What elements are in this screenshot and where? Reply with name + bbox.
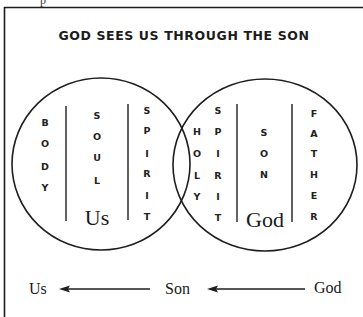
father-letter: E xyxy=(311,190,318,201)
soul-letter: S xyxy=(94,110,101,121)
father-letter: F xyxy=(311,108,318,119)
spirit-letter: R xyxy=(143,168,151,179)
soul-letter: L xyxy=(94,175,100,186)
soul-column: S O U L xyxy=(93,110,101,186)
spirit-letter: S xyxy=(144,105,151,116)
son-letter: S xyxy=(261,127,268,138)
holy-letter: L xyxy=(194,170,200,181)
flow-son-label: Son xyxy=(165,280,190,297)
father-letter: R xyxy=(310,211,318,222)
spirit-letter: P xyxy=(215,126,222,137)
son-letter: O xyxy=(260,148,268,159)
soul-letter: U xyxy=(93,152,101,163)
flow-god-label: God xyxy=(314,279,342,296)
god-spirit-column: S P I R I T xyxy=(214,105,222,223)
spirit-letter: S xyxy=(215,105,222,116)
soul-letter: O xyxy=(93,131,101,142)
son-column: S O N xyxy=(260,127,268,180)
son-letter: N xyxy=(260,169,268,180)
spirit-letter: I xyxy=(145,190,149,201)
body-letter: O xyxy=(41,138,49,149)
spirit-letter: I xyxy=(216,148,220,159)
spirit-letter: I xyxy=(145,148,149,159)
holy-letter: O xyxy=(193,148,201,159)
spirit-letter: R xyxy=(214,170,222,181)
body-column: B O D Y xyxy=(41,117,50,193)
body-letter: B xyxy=(41,117,48,128)
spirit-letter: T xyxy=(215,212,222,223)
us-spirit-column: S P I R I T xyxy=(143,105,151,222)
arrow-god-to-son-icon xyxy=(207,286,305,293)
diagram-canvas: p GOD SEES US THROUGH THE SON B O D Y S … xyxy=(0,0,363,317)
holy-column: H O L Y xyxy=(193,126,201,202)
us-label: Us xyxy=(85,205,109,230)
spirit-letter: T xyxy=(144,211,151,222)
spirit-letter: P xyxy=(144,125,151,136)
arrow-son-to-us-icon xyxy=(59,286,150,293)
flow-us-label: Us xyxy=(29,280,47,297)
god-label: God xyxy=(246,207,284,232)
body-letter: D xyxy=(41,161,49,172)
father-letter: H xyxy=(310,169,318,180)
spirit-letter: I xyxy=(216,191,220,202)
holy-letter: H xyxy=(193,126,201,137)
father-column: F A T H E R xyxy=(310,108,318,222)
body-letter: Y xyxy=(41,182,49,193)
diagram-title: GOD SEES US THROUGH THE SON xyxy=(58,28,309,43)
holy-letter: Y xyxy=(193,191,201,202)
father-letter: T xyxy=(311,148,318,159)
cropped-text-fragment: p xyxy=(40,0,46,7)
father-letter: A xyxy=(310,128,318,139)
